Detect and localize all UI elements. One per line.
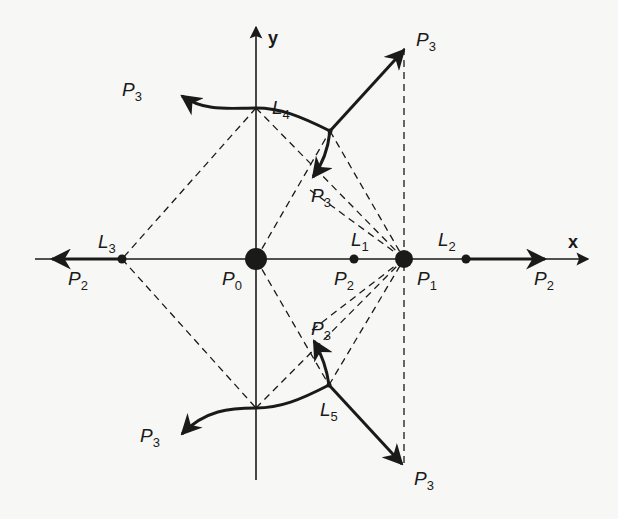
- label-l2: L2: [438, 229, 456, 254]
- label-p2-left: P2: [68, 268, 88, 293]
- point-l3: [118, 255, 127, 264]
- label-p3-top-right: P3: [416, 29, 436, 54]
- x-axis-label: x: [568, 232, 578, 252]
- y-axis-label: y: [268, 28, 278, 48]
- label-l5: L5: [320, 399, 338, 424]
- label-p3-upper-mid: P3: [311, 185, 331, 210]
- label-l3: L3: [98, 231, 116, 256]
- label-p1: P1: [417, 268, 437, 293]
- label-p2-mid: P2: [334, 268, 354, 293]
- label-p3-lower-mid: P3: [311, 318, 331, 343]
- label-l1: L1: [351, 229, 369, 254]
- label-l4: L4: [272, 97, 290, 122]
- point-l4: [328, 129, 333, 134]
- point-l1: [350, 255, 359, 264]
- point-p1: [395, 250, 413, 268]
- label-p3-bottom-right: P3: [414, 468, 434, 493]
- point-l2: [462, 255, 471, 264]
- point-l5: [327, 383, 332, 388]
- label-p2-right: P2: [534, 268, 554, 293]
- phase-portrait-diagram: y x P3 P3 L4 P3 L3 L1 L2 P2 P0 P2 P1 P2 …: [0, 0, 618, 519]
- point-p0: [245, 248, 267, 270]
- label-p3-top-left: P3: [122, 79, 142, 104]
- label-p0: P0: [222, 268, 242, 293]
- label-p3-bottom-left: P3: [140, 425, 160, 450]
